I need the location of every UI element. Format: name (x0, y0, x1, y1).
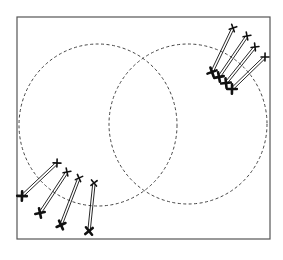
rod-top-cross-icon (261, 53, 269, 61)
rod-top-cross-icon (243, 32, 251, 40)
rod-bottom-cross-icon (17, 191, 27, 201)
rod-top-cross-icon (53, 159, 61, 167)
right-circle (109, 44, 267, 204)
dashed-circles (19, 44, 267, 206)
rod (207, 24, 236, 76)
frame-border (17, 17, 270, 239)
bottom-left-group (17, 159, 97, 235)
rod-top-cross-icon (251, 43, 259, 51)
rod-top-cross-icon (91, 180, 97, 186)
left-circle (19, 44, 177, 206)
rod (221, 43, 259, 88)
rod-bottom-cross-icon (227, 84, 237, 94)
rod (57, 174, 83, 229)
rod-groups (17, 24, 269, 234)
rod-bottom-cross-icon (57, 221, 66, 230)
diagram-canvas (0, 0, 283, 260)
rod (227, 53, 269, 94)
rod (85, 180, 97, 235)
rod-bottom-cross-icon (221, 78, 231, 88)
rod-bottom-cross-icon (85, 227, 92, 234)
top-right-group (207, 24, 268, 94)
rod (17, 159, 61, 201)
